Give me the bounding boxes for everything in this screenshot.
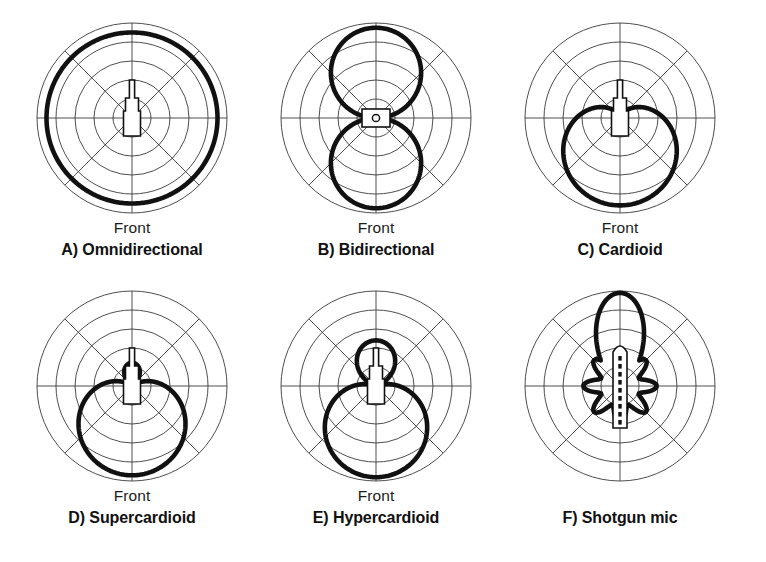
grid-spoke <box>309 118 376 185</box>
polar-plot-svg <box>12 286 252 491</box>
polar-plot-bidirectional <box>256 18 496 218</box>
mic-capsule-icon <box>612 80 629 136</box>
grid-spoke <box>132 51 199 118</box>
mic-capsule-icon <box>362 109 390 127</box>
grid-spoke <box>376 386 443 453</box>
polar-plot-svg <box>500 286 740 491</box>
grid-spoke <box>65 386 132 453</box>
grid-spoke <box>65 118 132 185</box>
grid-spoke <box>132 118 199 185</box>
polar-plot-cardioid <box>500 18 740 218</box>
mic-capsule-icon <box>124 80 141 136</box>
grid-spoke <box>620 386 687 453</box>
polar-panel-omnidirectional: FrontA) Omnidirectional <box>12 18 252 261</box>
polar-plot-omnidirectional <box>12 18 252 218</box>
grid-spoke <box>376 51 443 118</box>
polar-panel-hypercardioid: FrontE) Hypercardioid <box>256 286 496 529</box>
polar-plot-svg <box>256 18 496 223</box>
panel-caption-omnidirectional: A) Omnidirectional <box>12 239 252 261</box>
polar-pattern-figure: FrontA) OmnidirectionalFrontB) Bidirecti… <box>0 0 766 562</box>
grid-spoke <box>553 386 620 453</box>
grid-spoke <box>620 319 687 386</box>
grid-spoke <box>309 386 376 453</box>
mic-capsule-icon <box>124 348 141 404</box>
grid-spoke <box>65 319 132 386</box>
panel-caption-cardioid: C) Cardioid <box>500 239 740 261</box>
panel-caption-shotgun: F) Shotgun mic <box>500 507 740 529</box>
polar-plot-supercardioid <box>12 286 252 486</box>
grid-spoke <box>132 319 199 386</box>
grid-spoke <box>376 118 443 185</box>
grid-spoke <box>376 319 443 386</box>
grid-spoke <box>132 386 199 453</box>
polar-panel-shotgun: F) Shotgun mic <box>500 286 740 529</box>
grid-spoke <box>309 319 376 386</box>
panel-caption-hypercardioid: E) Hypercardioid <box>256 507 496 529</box>
panel-caption-supercardioid: D) Supercardioid <box>12 507 252 529</box>
polar-panel-cardioid: FrontC) Cardioid <box>500 18 740 261</box>
grid-spoke <box>553 319 620 386</box>
panel-caption-bidirectional: B) Bidirectional <box>256 239 496 261</box>
polar-panel-bidirectional: FrontB) Bidirectional <box>256 18 496 261</box>
polar-plot-svg <box>500 18 740 223</box>
mic-capsule-icon <box>368 348 385 404</box>
polar-plot-svg <box>256 286 496 491</box>
polar-plot-hypercardioid <box>256 286 496 486</box>
grid-spoke <box>65 51 132 118</box>
polar-plot-shotgun <box>500 286 740 486</box>
polar-panel-supercardioid: FrontD) Supercardioid <box>12 286 252 529</box>
mic-capsule-icon <box>613 346 627 428</box>
polar-plot-svg <box>12 18 252 223</box>
grid-spoke <box>309 51 376 118</box>
